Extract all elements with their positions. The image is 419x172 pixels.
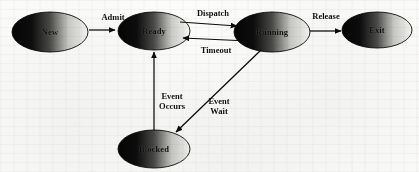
state-label-new: New (42, 27, 58, 37)
transition-label-event-occurs: EventOccurs (159, 91, 185, 111)
transition-label-event-wait: EventWait (208, 96, 229, 116)
state-nodes (12, 12, 412, 168)
transition-arrow-event-wait[interactable] (176, 50, 261, 132)
state-diagram-canvas: New Ready Running Exit Blocked Admit Dis… (0, 0, 419, 172)
transition-label-release: Release (312, 11, 339, 21)
state-label-blocked: Blocked (139, 144, 169, 154)
state-label-running: Running (256, 27, 288, 37)
state-label-exit: Exit (369, 25, 385, 35)
transition-label-dispatch: Dispatch (197, 8, 229, 18)
transition-label-admit: Admit (101, 12, 124, 22)
diagram-graphics (0, 0, 419, 172)
state-label-ready: Ready (142, 26, 166, 36)
transition-label-timeout: Timeout (201, 45, 232, 55)
